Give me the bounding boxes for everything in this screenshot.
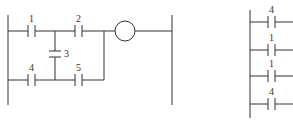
contact-label: 1 xyxy=(269,58,274,69)
contact-1: 1 xyxy=(28,13,35,37)
output-coil xyxy=(115,21,135,41)
right-ladder: 4 1 1 4 xyxy=(250,4,293,118)
ladder-diagram: 1 2 3 4 5 xyxy=(0,0,293,129)
contact-5-label: 5 xyxy=(76,62,81,73)
contact-2: 2 xyxy=(75,13,82,37)
rung-1: 4 xyxy=(250,4,293,28)
rung-4: 4 xyxy=(250,86,293,110)
contact-4: 4 xyxy=(28,62,35,86)
left-ladder: 1 2 3 4 5 xyxy=(8,13,172,105)
contact-label: 4 xyxy=(269,4,274,15)
contact-4-label: 4 xyxy=(29,62,34,73)
rung-3: 1 xyxy=(250,58,293,82)
rung-2: 1 xyxy=(250,32,293,56)
contact-3-label: 3 xyxy=(64,48,69,59)
contact-2-label: 2 xyxy=(76,13,81,24)
contact-label: 1 xyxy=(269,32,274,43)
contact-label: 4 xyxy=(269,86,274,97)
contact-3: 3 xyxy=(49,48,69,59)
contact-1-label: 1 xyxy=(29,13,34,24)
contact-5: 5 xyxy=(75,62,82,86)
